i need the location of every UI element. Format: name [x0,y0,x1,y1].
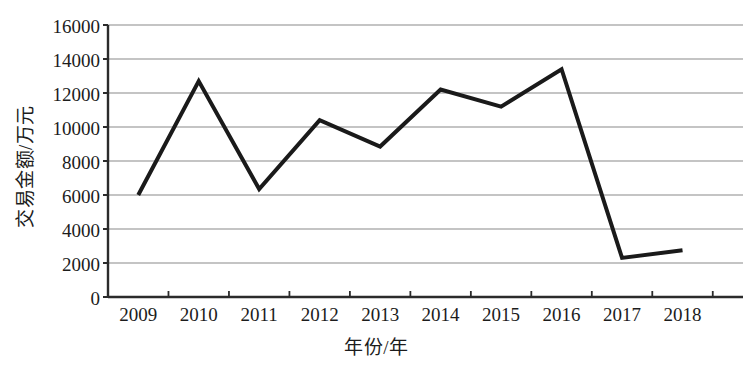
x-tick-label: 2011 [227,305,291,324]
x-tick-label: 2009 [106,305,170,324]
chart-container: 交易金额/万元 16000 14000 12000 10000 8000 600… [0,0,753,369]
x-tick-label: 2017 [590,305,654,324]
x-tick-label: 2014 [409,305,473,324]
x-tick-label: 2012 [288,305,352,324]
x-tick-label: 2018 [651,305,715,324]
x-tick-label: 2015 [469,305,533,324]
gridlines [108,25,743,263]
x-axis-title: 年份/年 [0,332,753,359]
x-tick-label: 2010 [167,305,231,324]
x-tick-label: 2016 [530,305,594,324]
data-series-line [138,69,682,258]
x-tick-label: 2013 [348,305,412,324]
